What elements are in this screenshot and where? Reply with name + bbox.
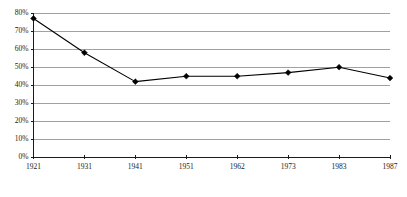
y-axis-tick-labels: 0%10%20%30%40%50%60%70%80% bbox=[15, 8, 29, 162]
y-axis-tick-label: 40% bbox=[15, 80, 29, 89]
x-axis-tick-label: 1941 bbox=[128, 162, 143, 171]
x-axis-tick-label: 1973 bbox=[281, 162, 296, 171]
y-axis-tick-label: 10% bbox=[15, 134, 29, 143]
y-axis-tick-label: 0% bbox=[19, 152, 29, 161]
x-axis-tick-label: 1921 bbox=[26, 162, 41, 171]
y-axis-tick-label: 80% bbox=[15, 8, 29, 17]
x-axis-tick-label: 1983 bbox=[332, 162, 347, 171]
x-axis-tick-label: 1962 bbox=[230, 162, 245, 171]
line-chart: 0%10%20%30%40%50%60%70%80% 1921193119411… bbox=[0, 0, 407, 197]
y-axis-tick-label: 70% bbox=[15, 26, 29, 35]
chart-container: 0%10%20%30%40%50%60%70%80% 1921193119411… bbox=[0, 0, 407, 197]
x-axis-tick-label: 1931 bbox=[77, 162, 92, 171]
x-axis-tick-label: 1951 bbox=[179, 162, 194, 171]
y-axis-tick-label: 50% bbox=[15, 62, 29, 71]
y-axis-tick-label: 30% bbox=[15, 98, 29, 107]
y-axis-tick-label: 60% bbox=[15, 44, 29, 53]
y-axis-tick-label: 20% bbox=[15, 116, 29, 125]
x-axis-tick-label: 1987 bbox=[383, 162, 398, 171]
